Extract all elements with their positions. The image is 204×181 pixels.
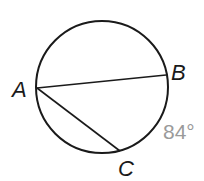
chord-ac bbox=[37, 88, 120, 151]
point-label-c: C bbox=[118, 156, 134, 181]
chord-ab bbox=[37, 75, 166, 88]
point-label-a: A bbox=[10, 77, 27, 102]
point-label-b: B bbox=[171, 60, 186, 85]
geometry-diagram: A B C 84° bbox=[0, 0, 204, 181]
circle bbox=[36, 21, 168, 153]
arc-measure-label: 84° bbox=[163, 120, 195, 143]
